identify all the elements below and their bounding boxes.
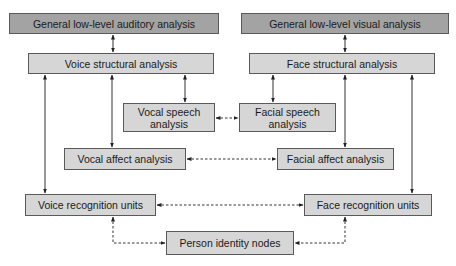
node-label: Facial speech analysis <box>247 106 328 130</box>
node-label: Face recognition units <box>317 199 420 211</box>
node-label: Vocal affect analysis <box>78 153 173 165</box>
node-label: Facial affect analysis <box>287 153 384 165</box>
node-auditory: General low-level auditory analysis <box>9 13 219 34</box>
node-label: Face structural analysis <box>287 58 397 70</box>
node-label: General low-level auditory analysis <box>33 18 195 30</box>
node-label: General low-level visual analysis <box>269 18 421 30</box>
edge-voice-rec-to-pin <box>113 217 165 243</box>
node-voice-rec: Voice recognition units <box>25 194 156 216</box>
node-face-rec: Face recognition units <box>304 194 432 216</box>
node-label: Person identity nodes <box>180 237 281 249</box>
edge-face-rec-to-pin <box>295 217 345 243</box>
connections-layer <box>0 0 456 266</box>
node-label: Vocal speech analysis <box>131 106 207 130</box>
node-face-struct: Face structural analysis <box>249 53 435 74</box>
node-facial-speech: Facial speech analysis <box>239 103 336 132</box>
node-vocal-speech: Vocal speech analysis <box>123 103 215 132</box>
node-pin: Person identity nodes <box>166 231 294 255</box>
node-facial-affect: Facial affect analysis <box>277 148 394 170</box>
node-vocal-affect: Vocal affect analysis <box>64 148 186 170</box>
node-visual: General low-level visual analysis <box>241 13 449 34</box>
node-label: Voice structural analysis <box>65 58 178 70</box>
node-voice-struct: Voice structural analysis <box>28 53 214 74</box>
node-label: Voice recognition units <box>38 199 143 211</box>
